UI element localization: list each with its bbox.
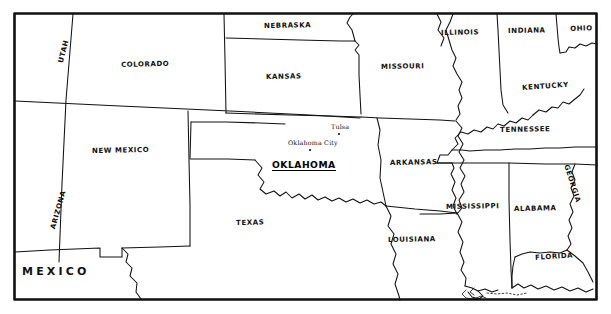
map-geometry [0, 0, 611, 314]
border-georgia-florida [515, 250, 567, 257]
border-alabama-georgia [567, 164, 575, 250]
border-oklahoma-arkansas [377, 118, 386, 206]
border-tennessee-south [437, 163, 597, 165]
border-oklahoma-panhandle-south [191, 159, 255, 160]
border-nebraska-kansas [226, 38, 355, 41]
map-container: UTAH COLORADO NEBRASKA KANSAS MISSOURI I… [0, 0, 611, 314]
border-louisiana-texas [386, 206, 400, 300]
border-newmexico-mexico [15, 248, 122, 257]
coastline-florida-panhandle [512, 284, 593, 292]
border-newmexico-texas [188, 111, 190, 246]
border-nebraska-missouri [347, 14, 355, 41]
border-mississippi-louisiana-north [420, 213, 457, 214]
border-mississippi-alabama [509, 163, 512, 288]
border-illinois-indiana [497, 14, 508, 113]
border-utah-colorado [59, 14, 73, 262]
border-missouri-illinois-mississippi-river [446, 14, 462, 120]
border-illinois-missouri-upper [437, 14, 444, 46]
coastline-delta-detail-2 [470, 288, 474, 295]
border-oklahoma-panhandle [191, 122, 285, 124]
border-kansas-missouri [355, 41, 361, 114]
coastline-gulf-louisiana [465, 286, 498, 292]
border-ohio-kentucky-river [560, 43, 597, 53]
border-texas-mexico-riogrande [122, 248, 141, 299]
border-oklahoma-panhandle-west [190, 122, 191, 159]
border-kansas-oklahoma [226, 113, 361, 117]
border-kentucky-illinois-ohio-river [452, 115, 533, 150]
border-colorado-kansas [224, 14, 226, 113]
border-newmexico-texas-south [122, 246, 190, 248]
border-missouri-arkansas [361, 117, 455, 121]
coastline-barrier-islands [487, 293, 527, 295]
border-florida-alabama-west [512, 257, 515, 288]
border-oklahoma-texas-redriver [255, 160, 386, 206]
border-arkansas-louisiana [386, 206, 457, 213]
coastline-georgia [567, 250, 593, 282]
border-kentucky-indiana-ohio [533, 89, 584, 115]
border-louisiana-mississippi [457, 213, 466, 286]
border-indiana-ohio [556, 14, 560, 53]
border-tennessee-west-river [451, 163, 457, 214]
